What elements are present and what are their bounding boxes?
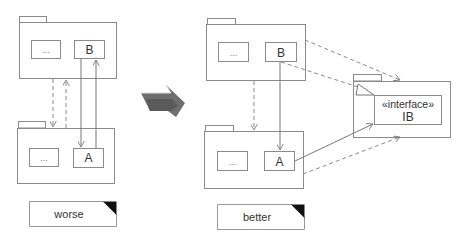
interface-stereotype: «interface» bbox=[382, 98, 434, 110]
better-label: better bbox=[243, 211, 271, 223]
package-tab bbox=[206, 126, 234, 132]
elided-classes-box[interactable]: ... bbox=[30, 149, 59, 167]
class-a-label: A bbox=[84, 151, 92, 165]
worse-bottom-package[interactable]: ... A bbox=[18, 122, 115, 184]
interface-ib-label: IB bbox=[402, 110, 413, 124]
better-note: better bbox=[218, 205, 305, 230]
package-tab bbox=[20, 17, 47, 23]
association-a-to-ib-arrow bbox=[295, 124, 373, 161]
package-tab bbox=[354, 75, 382, 82]
thick-arrow-right-icon bbox=[141, 85, 185, 117]
class-b-box[interactable]: B bbox=[266, 43, 297, 62]
package-tab bbox=[19, 122, 46, 129]
worse-label: worse bbox=[53, 208, 83, 220]
elided-label: ... bbox=[42, 45, 50, 55]
elided-classes-box[interactable]: ... bbox=[32, 41, 61, 59]
class-a-label: A bbox=[275, 155, 283, 169]
class-b-box[interactable]: B bbox=[75, 41, 105, 59]
worse-top-package[interactable]: ... B bbox=[20, 17, 117, 79]
better-bottom-package[interactable]: ... A bbox=[205, 126, 304, 189]
elided-label: ... bbox=[230, 48, 238, 58]
package-tab bbox=[208, 19, 236, 25]
class-a-box[interactable]: A bbox=[74, 149, 104, 168]
elided-classes-box[interactable]: ... bbox=[219, 43, 249, 62]
class-a-box[interactable]: A bbox=[265, 152, 295, 171]
dependency-bottom-to-interface-arrow bbox=[303, 137, 400, 174]
elided-label: ... bbox=[229, 157, 237, 167]
class-b-label: B bbox=[85, 43, 93, 57]
diagram-canvas: ... B ... A worse bbox=[0, 0, 465, 241]
elided-label: ... bbox=[40, 153, 48, 163]
interface-package[interactable]: «interface» IB bbox=[354, 75, 451, 138]
worse-note: worse bbox=[30, 202, 117, 227]
elided-classes-box[interactable]: ... bbox=[218, 152, 248, 171]
dependency-top-to-interface-arrow bbox=[305, 40, 400, 80]
interface-ib-box[interactable]: «interface» IB bbox=[375, 96, 442, 125]
better-top-package[interactable]: ... B bbox=[207, 19, 306, 81]
class-b-label: B bbox=[277, 46, 285, 60]
